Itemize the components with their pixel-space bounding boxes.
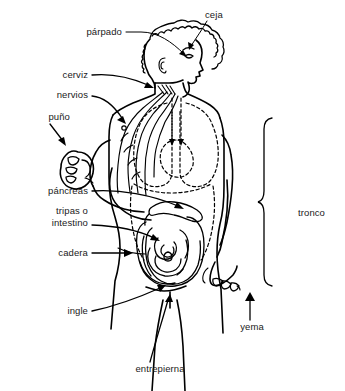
nerves-group	[117, 92, 178, 195]
label-parpado: párpado	[86, 26, 122, 37]
label-ceja: ceja	[205, 9, 223, 20]
label-ingle: ingle	[67, 305, 88, 316]
torso-left-contour	[109, 115, 120, 329]
callout-tronco: tronco	[258, 118, 325, 286]
pelvis-line	[146, 286, 186, 291]
arrow-cerviz	[144, 82, 154, 88]
callout-ceja: ceja	[188, 9, 223, 50]
leader-ingle	[92, 288, 160, 311]
right-hand-thumb	[203, 268, 208, 283]
label-entrepierna: entrepierna	[135, 363, 185, 374]
callout-ingle: ingle	[67, 285, 166, 316]
right-arm-group	[203, 135, 240, 291]
arrow-puno	[58, 137, 66, 146]
arrow-yema	[245, 292, 255, 301]
fist-thumb	[82, 160, 90, 177]
arrow-entrepierna	[165, 294, 173, 302]
head-back-contour	[144, 39, 155, 88]
arrow-cadera	[124, 249, 133, 257]
anatomical-diagram: párpado ceja cerviz nervios puño	[0, 0, 345, 391]
label-cerviz: cerviz	[63, 69, 89, 80]
arrow-nervios	[117, 116, 126, 124]
brace-tronco	[258, 118, 272, 286]
right-leg-inner	[177, 300, 185, 391]
leader-cerviz	[92, 75, 148, 85]
label-yema: yema	[240, 321, 264, 332]
label-tronco: tronco	[298, 207, 325, 218]
jaw-line	[155, 80, 183, 83]
label-tripas-line1: tripas o	[56, 205, 88, 216]
leader-parpado	[126, 32, 184, 54]
fist-knuckle-3	[66, 176, 76, 183]
heart	[160, 140, 193, 177]
left-leg-inner	[152, 300, 163, 391]
eyebrow	[183, 48, 194, 50]
label-cadera: cadera	[58, 247, 88, 258]
ear-outer	[159, 58, 166, 73]
hair-curls	[152, 26, 218, 57]
callout-puno: puño	[48, 111, 70, 146]
label-tripas-line2: intestino	[52, 217, 88, 228]
callout-yema: yema	[240, 292, 264, 332]
callout-cerviz: cerviz	[63, 69, 154, 88]
nerve-node	[122, 126, 126, 130]
leader-puno	[50, 124, 63, 141]
hair-outline	[150, 20, 224, 69]
intestines-group	[137, 217, 204, 286]
fist-knuckle-1	[68, 157, 79, 165]
right-hand-palm	[210, 262, 237, 285]
small-intestine-coil-8	[177, 240, 188, 275]
label-pancreas: páncreas	[48, 185, 88, 196]
leader-entrepierna	[150, 300, 168, 362]
callout-cadera: cadera	[58, 247, 133, 258]
leader-tripas	[92, 225, 154, 238]
ear-inner	[161, 62, 164, 69]
figure-svg: párpado ceja cerviz nervios puño	[0, 0, 345, 391]
label-puno: puño	[48, 111, 70, 122]
lung-left	[134, 103, 172, 187]
torso-right-contour	[217, 118, 224, 333]
abdomen-right-wall	[201, 186, 215, 260]
leader-nervios	[92, 96, 122, 118]
right-arm-outer	[220, 135, 233, 245]
nerve-strand-2	[128, 92, 167, 192]
label-nervios: nervios	[57, 89, 88, 100]
right-arm-inner	[217, 180, 228, 257]
fist-knuckle-2	[66, 167, 77, 174]
arrow-parpado	[179, 50, 187, 57]
left-forearm-upper	[93, 186, 144, 212]
arrow-tripas	[150, 234, 160, 241]
